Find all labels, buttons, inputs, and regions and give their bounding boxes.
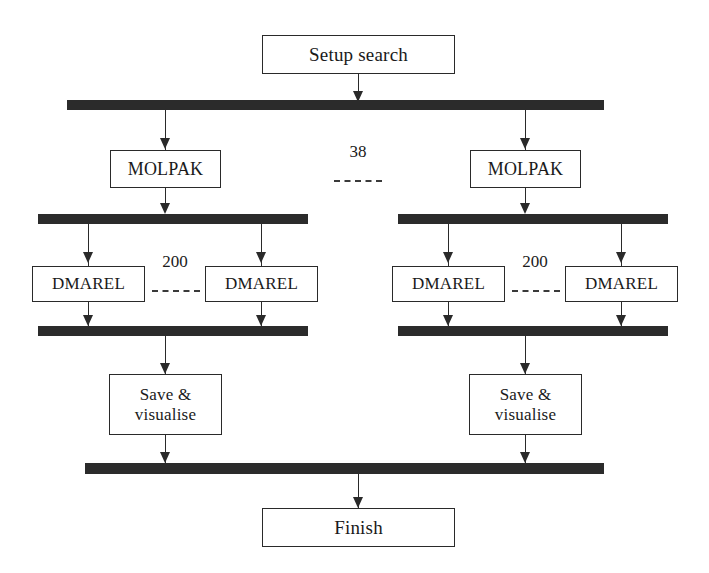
multiplicity-dmarel-left-dashes [152,290,200,292]
arrowhead-join-right-to-save-right [520,363,530,374]
fork-bar-mid-right [398,214,668,224]
arrowhead-join-bottom-to-finish [353,497,363,508]
arrowhead-dmarel-right-2-to-join-right [616,315,626,326]
arrowhead-dmarel-left-2-to-join-left [256,315,266,326]
node-save-visualise-right[interactable]: Save & visualise [469,374,582,435]
node-dmarel-right-2-label: DMAREL [585,274,658,293]
node-molpak-left-label: MOLPAK [128,159,204,179]
node-finish-label: Finish [334,517,383,538]
node-molpak-left[interactable]: MOLPAK [110,150,221,188]
arrowhead-fork-mid-left-to-dmarel-2 [256,252,266,263]
join-bar-right [398,326,668,336]
node-finish[interactable]: Finish [262,508,455,547]
multiplicity-molpak-count: 38 [318,143,398,160]
arrowhead-fork-top-to-molpak-left [160,138,170,149]
node-dmarel-left-2[interactable]: DMAREL [205,266,318,302]
arrowhead-join-left-to-save-left [160,363,170,374]
arrowhead-molpak-right-to-fork-mid-right [520,203,530,214]
arrowhead-molpak-left-to-fork-mid-left [160,203,170,214]
node-setup-search-label: Setup search [309,44,408,65]
fork-bar-top [67,100,604,110]
multiplicity-dmarel-left-branches: 200 [135,253,215,270]
join-bar-left [38,326,308,336]
arrowhead-fork-mid-left-to-dmarel-1 [83,252,93,263]
flowchart-canvas: Setup search 38 MOLPAK MOLPAK DMAREL [0,0,709,573]
node-molpak-right[interactable]: MOLPAK [470,150,581,188]
arrowhead-save-left-to-join-bottom [160,452,170,463]
multiplicity-dmarel-left-count: 200 [135,253,215,270]
arrowhead-fork-top-to-molpak-right [520,138,530,149]
node-dmarel-left-1[interactable]: DMAREL [32,266,145,302]
arrowhead-dmarel-left-1-to-join-left [83,315,93,326]
node-save-visualise-left-label: Save & visualise [135,385,196,423]
multiplicity-dmarel-right-dashes [512,290,560,292]
node-dmarel-right-1[interactable]: DMAREL [392,266,505,302]
node-dmarel-right-2[interactable]: DMAREL [565,266,678,302]
node-save-visualise-left[interactable]: Save & visualise [109,374,222,435]
fork-bar-mid-left [38,214,308,224]
node-dmarel-left-2-label: DMAREL [225,274,298,293]
multiplicity-molpak-branches: 38 [318,143,398,160]
node-dmarel-left-1-label: DMAREL [52,274,125,293]
multiplicity-molpak-dashes [334,180,382,182]
join-bar-bottom [85,463,604,474]
arrowhead-save-right-to-join-bottom [520,452,530,463]
node-dmarel-right-1-label: DMAREL [412,274,485,293]
arrowhead-dmarel-right-1-to-join-right [443,315,453,326]
node-save-visualise-right-label: Save & visualise [495,385,556,423]
multiplicity-dmarel-right-branches: 200 [495,253,575,270]
arrowhead-fork-mid-right-to-dmarel-1 [443,252,453,263]
node-setup-search[interactable]: Setup search [262,35,455,74]
node-molpak-right-label: MOLPAK [488,159,564,179]
arrowhead-fork-mid-right-to-dmarel-2 [616,252,626,263]
multiplicity-dmarel-right-count: 200 [495,253,575,270]
